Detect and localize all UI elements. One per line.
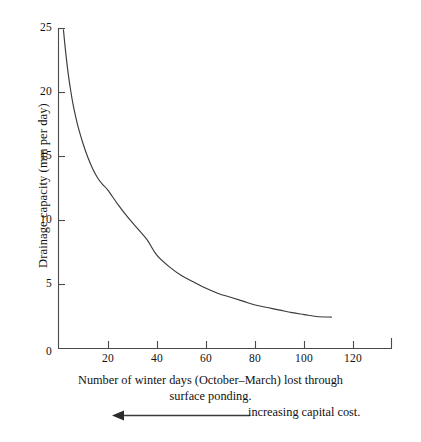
x-tick-label-100: 100 bbox=[289, 352, 319, 364]
capital-cost-label: increasing capital cost. bbox=[248, 405, 360, 420]
y-tick-label-25: 25 bbox=[26, 21, 52, 33]
x-tick-label-80: 80 bbox=[240, 352, 270, 364]
chart-canvas bbox=[0, 0, 421, 365]
capital-cost-annotation: increasing capital cost. bbox=[0, 405, 421, 431]
y-axis-ticks bbox=[59, 29, 66, 285]
y-axis-title: Drainage capacity (mm per day) bbox=[36, 66, 51, 306]
x-axis-caption-line1: Number of winter days (October–March) lo… bbox=[78, 373, 343, 387]
x-tick-label-60: 60 bbox=[191, 352, 221, 364]
x-tick-label-20: 20 bbox=[93, 352, 123, 364]
y-tick-label-0: 0 bbox=[26, 345, 52, 357]
plot-area: 25 20 15 10 5 0 20 40 60 80 100 120 Drai… bbox=[0, 0, 421, 365]
x-tick-label-40: 40 bbox=[142, 352, 172, 364]
x-tick-label-120: 120 bbox=[338, 352, 368, 364]
x-axis-caption: Number of winter days (October–March) lo… bbox=[0, 372, 421, 404]
chart-figure: 25 20 15 10 5 0 20 40 60 80 100 120 Drai… bbox=[0, 0, 421, 442]
data-curve bbox=[63, 30, 331, 317]
left-arrow-icon bbox=[112, 407, 250, 423]
x-axis-ticks bbox=[109, 338, 392, 349]
x-axis-caption-line2: surface ponding. bbox=[0, 388, 421, 404]
